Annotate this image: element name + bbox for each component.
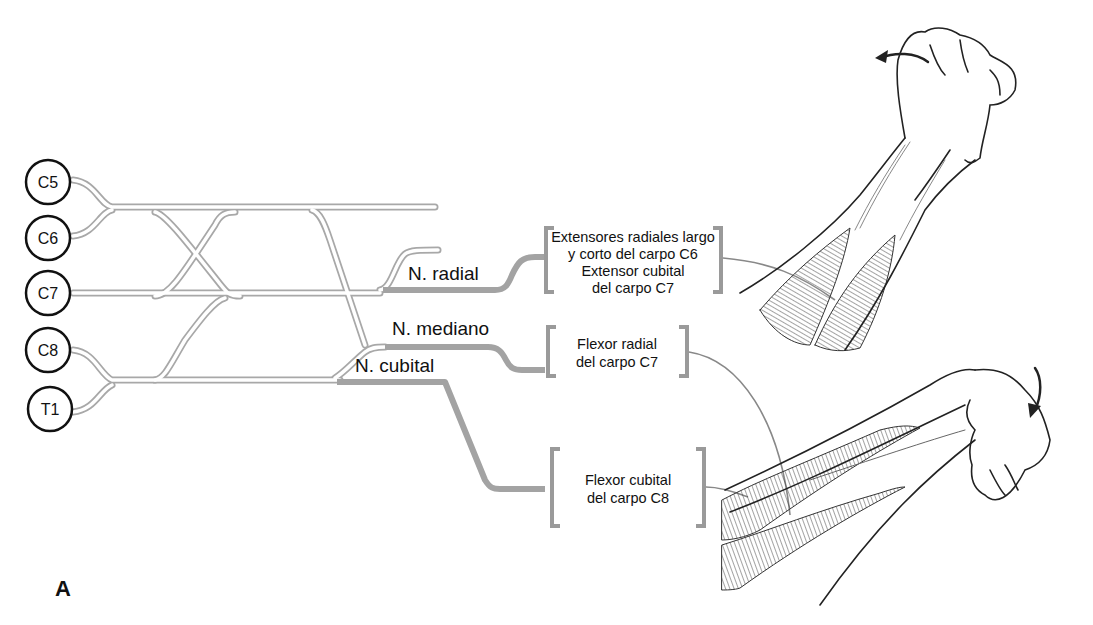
- root-c8: C8: [26, 328, 70, 372]
- svg-text:del carpo C7: del carpo C7: [576, 354, 658, 370]
- wrist-flexion-arm-illustration: [722, 368, 1050, 605]
- svg-text:del carpo C7: del carpo C7: [592, 280, 674, 296]
- bracket-flexor-ulnar-right: [696, 449, 704, 526]
- svg-text:Extensores radiales largo: Extensores radiales largo: [551, 229, 715, 245]
- svg-text:Extensor cubital: Extensor cubital: [581, 263, 684, 279]
- muscle-extensors-text: Extensores radiales largo y corto del ca…: [551, 229, 715, 296]
- wrist-extension-arm-illustration: [740, 28, 1016, 351]
- svg-text:C6: C6: [38, 230, 59, 247]
- muscle-flexor-ulnar-text: Flexor cubital del carpo C8: [585, 472, 671, 506]
- bracket-flexor-radial-right: [679, 327, 687, 376]
- svg-text:T1: T1: [41, 401, 60, 418]
- panel-label: A: [55, 576, 71, 601]
- ulnar-nerve-trunk: [337, 382, 545, 489]
- svg-text:del carpo C8: del carpo C8: [587, 490, 669, 506]
- bracket-flexor-ulnar-left: [552, 449, 560, 526]
- label-ulnar-nerve: N. cubital: [355, 355, 434, 376]
- svg-text:Flexor cubital: Flexor cubital: [585, 472, 671, 488]
- root-c6: C6: [26, 216, 70, 260]
- svg-text:y corto del carpo C6: y corto del carpo C6: [568, 246, 698, 262]
- root-t1: T1: [28, 387, 72, 431]
- root-c5: C5: [26, 160, 70, 204]
- plexus-network: [73, 180, 438, 412]
- svg-text:C7: C7: [38, 285, 59, 302]
- muscle-flexor-radial-text: Flexor radial del carpo C7: [576, 336, 658, 370]
- svg-text:C8: C8: [38, 342, 59, 359]
- bracket-flexor-radial-left: [548, 327, 556, 376]
- root-c7: C7: [26, 271, 70, 315]
- label-radial-nerve: N. radial: [408, 263, 479, 284]
- spinal-roots: C5 C6 C7 C8 T1: [26, 160, 72, 431]
- svg-text:C5: C5: [38, 174, 59, 191]
- brachial-plexus-diagram: C5 C6 C7 C8 T1 N. radial N. mediano N. c…: [0, 0, 1093, 625]
- svg-text:Flexor radial: Flexor radial: [577, 336, 657, 352]
- label-median-nerve: N. mediano: [392, 318, 489, 339]
